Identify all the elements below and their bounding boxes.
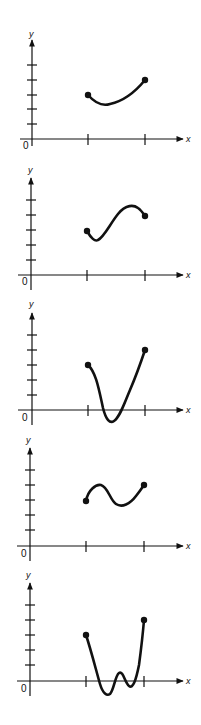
end-point [142, 77, 148, 83]
panel-4: y x 0 [17, 435, 191, 561]
start-point [83, 632, 89, 638]
end-point [142, 213, 148, 219]
panel-1: y x 0 [20, 29, 191, 151]
x-label: x [185, 541, 191, 551]
end-point [141, 617, 147, 623]
x-label: x [185, 405, 191, 415]
panel-2: y x 0 [18, 165, 191, 290]
start-point [83, 498, 89, 504]
start-point [85, 362, 91, 368]
y-label: y [25, 570, 31, 580]
origin-label: 0 [21, 548, 27, 559]
curve [88, 80, 145, 105]
y-label: y [25, 435, 31, 445]
y-label: y [28, 29, 34, 39]
origin-label: 0 [23, 140, 29, 151]
x-label: x [185, 270, 191, 280]
curve [88, 350, 145, 422]
curve [87, 206, 145, 241]
start-point [84, 228, 90, 234]
panel-5: y x 0 [17, 570, 191, 696]
graph-stack: y x 0 y x 0 [0, 0, 201, 725]
y-label: y [27, 165, 33, 175]
origin-label: 0 [22, 412, 28, 423]
y-label: y [28, 299, 34, 309]
start-point [85, 92, 91, 98]
curve [86, 485, 144, 506]
origin-label: 0 [21, 683, 27, 694]
end-point [141, 482, 147, 488]
curve [86, 620, 144, 695]
origin-label: 0 [22, 276, 28, 287]
x-label: x [185, 676, 191, 686]
panel-3: y x 0 [18, 299, 191, 425]
x-label: x [185, 134, 191, 144]
end-point [142, 347, 148, 353]
